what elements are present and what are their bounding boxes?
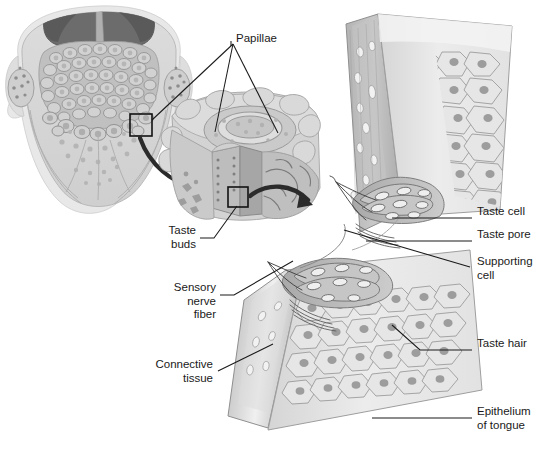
papilla-block-panel	[159, 88, 320, 220]
supporting-cell-label: Supporting cell	[477, 255, 533, 282]
taste-cell-label: Taste cell	[477, 205, 525, 219]
anatomical-illustration	[0, 0, 539, 450]
taste-pore-label: Taste pore	[477, 228, 531, 242]
taste-bud-section-panel	[228, 14, 512, 430]
connective-tissue-label: Connective tissue	[133, 358, 213, 385]
taste-bud-upper	[330, 176, 444, 248]
taste-hair-label: Taste hair	[477, 337, 527, 351]
whole-tongue-panel	[6, 6, 193, 213]
papillae-label: Papillae	[236, 32, 277, 46]
taste-buds-label: Taste buds	[116, 224, 196, 251]
sensory-nerve-fiber-label: Sensory nerve fiber	[136, 281, 216, 322]
epithelium-of-tongue-label: Epithelium of tongue	[477, 405, 531, 432]
figure-canvas: Papillae Taste cell Taste pore Supportin…	[0, 0, 539, 450]
